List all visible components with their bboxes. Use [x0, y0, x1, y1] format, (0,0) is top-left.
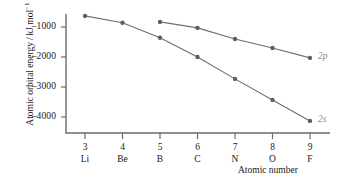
data-point-2s — [83, 14, 87, 18]
data-point-2s — [233, 77, 237, 81]
series-label-2s: 2s — [318, 114, 326, 124]
data-point-2p — [270, 46, 274, 50]
y-axis-label: Atomic orbital energy / kJ mol−1 — [23, 0, 35, 139]
x-tick-label-element: F — [295, 154, 325, 164]
x-tick-label-element: Be — [108, 154, 138, 164]
x-tick-label-number: 5 — [145, 142, 175, 152]
data-point-2p — [195, 26, 199, 30]
y-tick-marks — [61, 27, 66, 117]
data-point-2s — [308, 119, 312, 123]
chart-figure: –1000–2000–3000–4000 3Li4Be5B6C7N8O9F 2s… — [0, 0, 346, 196]
x-tick-label-element: B — [145, 154, 175, 164]
x-tick-label-element: Li — [70, 154, 100, 164]
x-tick-label-element: O — [258, 154, 288, 164]
data-point-2p — [158, 20, 162, 24]
series-label-2p: 2p — [318, 51, 328, 61]
data-point-2s — [120, 21, 124, 25]
series-line-2s — [85, 16, 310, 121]
data-series-group — [83, 14, 312, 123]
x-tick-label-number: 3 — [70, 142, 100, 152]
x-tick-label-number: 4 — [108, 142, 138, 152]
x-tick-label-number: 8 — [258, 142, 288, 152]
y-axis-label-text: Atomic orbital energy / kJ mol — [25, 10, 35, 126]
x-tick-label-number: 6 — [183, 142, 213, 152]
data-point-2p — [233, 37, 237, 41]
x-tick-label-element: N — [220, 154, 250, 164]
data-point-2p — [308, 56, 312, 60]
x-tick-marks — [85, 133, 310, 139]
data-point-2s — [270, 98, 274, 102]
data-point-2s — [195, 55, 199, 59]
y-axis-label-exponent: −1 — [23, 2, 31, 9]
data-point-2s — [158, 36, 162, 40]
axis-lines — [66, 14, 330, 133]
x-axis-label: Atomic number — [238, 165, 298, 175]
axes — [61, 14, 330, 139]
x-tick-label-number: 9 — [295, 142, 325, 152]
x-tick-label-element: C — [183, 154, 213, 164]
x-tick-label-number: 7 — [220, 142, 250, 152]
